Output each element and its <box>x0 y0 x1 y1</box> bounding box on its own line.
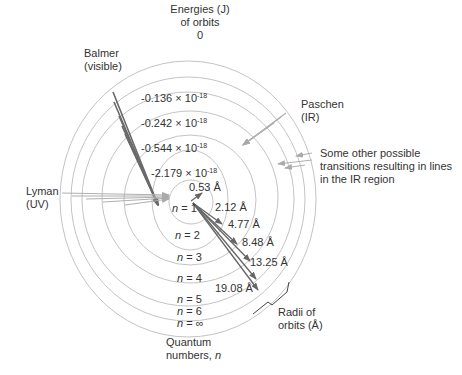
quantum-n1: n = 1 <box>172 202 197 215</box>
energy-value-n3: -0.242 × 10-18 <box>141 114 207 130</box>
radii-label-line2: orbits (Å) <box>278 319 323 332</box>
n-value: = 3 <box>183 251 202 263</box>
energy-header-line1: Energies (J) <box>160 3 240 16</box>
quantum-label-line2: numbers, n <box>166 349 221 362</box>
radius-n3: 4.77 Å <box>228 218 260 231</box>
paschen-arrows <box>243 113 286 145</box>
paschen-label-line2: (IR) <box>301 111 344 124</box>
other-ir-label-line1: Some other possible <box>320 147 452 160</box>
lyman-label: Lyman (UV) <box>26 185 59 211</box>
energy-exponent: -18 <box>207 167 217 174</box>
energy-value-n2: -0.544 × 10-18 <box>141 139 207 155</box>
other-ir-label-line3: in the IR region <box>320 173 452 186</box>
n-value: = 4 <box>183 272 202 284</box>
quantum-label-line1: Quantum <box>166 336 221 349</box>
energy-value-n4: -0.136 × 10-18 <box>141 89 207 105</box>
radius-n2: 2.12 Å <box>215 201 247 214</box>
energy-base: 10 <box>195 167 207 179</box>
n-value: = 1 <box>178 202 197 214</box>
balmer-label-line2: (visible) <box>84 60 122 73</box>
lyman-arrows <box>62 193 169 205</box>
balmer-label-line1: Balmer <box>84 47 122 60</box>
quantum-n-inf: n = ∞ <box>177 317 204 330</box>
lyman-label-line1: Lyman <box>26 185 59 198</box>
times-sign: × <box>175 117 181 129</box>
energy-value-n1: -2.179 × 10-18 <box>151 164 217 180</box>
paschen-label-line1: Paschen <box>301 98 344 111</box>
quantum-label-text: numbers, <box>166 349 215 361</box>
n-symbol: n <box>215 349 221 361</box>
quantum-n3: n = 3 <box>177 251 202 264</box>
times-sign: × <box>185 167 191 179</box>
radius-n6: 19.08 Å <box>215 282 253 295</box>
energy-base: 10 <box>185 142 197 154</box>
times-sign: × <box>175 92 181 104</box>
radius-n5: 13.25 Å <box>250 256 288 269</box>
radii-label: Radii of orbits (Å) <box>278 306 323 332</box>
energy-header: Energies (J) of orbits 0 <box>160 3 240 42</box>
n-value: = 2 <box>181 229 200 241</box>
energy-mantissa: -0.136 <box>141 92 172 104</box>
paschen-label: Paschen (IR) <box>301 98 344 124</box>
n-value: = ∞ <box>183 317 203 329</box>
radius-n4: 8.48 Å <box>242 236 274 249</box>
radius-n1: 0.53 Å <box>189 181 221 194</box>
energy-base: 10 <box>185 92 197 104</box>
other-ir-label-line2: transitions resulting in lines <box>320 160 452 173</box>
energy-value-inf: 0 <box>160 29 240 42</box>
lyman-label-line2: (UV) <box>26 198 59 211</box>
quantum-n4: n = 4 <box>177 272 202 285</box>
energy-mantissa: -2.179 <box>151 167 182 179</box>
quantum-n2: n = 2 <box>175 229 200 242</box>
energy-exponent: -18 <box>197 117 207 124</box>
other-ir-arrows <box>278 153 312 168</box>
other-ir-label: Some other possible transitions resultin… <box>320 147 452 186</box>
energy-header-line2: of orbits <box>160 16 240 29</box>
n-value: = 6 <box>183 305 202 317</box>
quantum-numbers-label: Quantum numbers, n <box>166 336 221 362</box>
energy-exponent: -18 <box>197 142 207 149</box>
energy-mantissa: -0.242 <box>141 117 172 129</box>
bohr-diagram <box>0 0 462 375</box>
balmer-label: Balmer (visible) <box>84 47 122 73</box>
energy-exponent: -18 <box>197 92 207 99</box>
times-sign: × <box>175 142 181 154</box>
n-value: = 5 <box>183 293 202 305</box>
radii-label-line1: Radii of <box>278 306 323 319</box>
energy-mantissa: -0.544 <box>141 142 172 154</box>
energy-base: 10 <box>185 117 197 129</box>
